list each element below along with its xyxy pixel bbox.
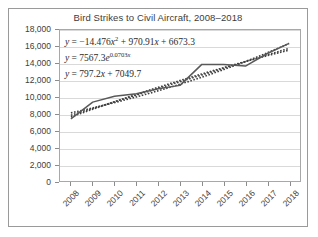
y-axis-tick-label: 16,000: [7, 41, 51, 51]
x-axis-tick-mark: [70, 182, 71, 186]
y-axis-tick-label: 18,000: [7, 24, 51, 34]
y-axis: 02,0004,0006,0008,00010,00012,00014,0001…: [9, 29, 59, 182]
y-axis-tick-label: 8,000: [7, 109, 51, 119]
y-axis-tick-label: 4,000: [7, 143, 51, 153]
y-axis-tick-label: 2,000: [7, 160, 51, 170]
equation-polynomial: y = −14.476x2 + 970.91x + 6673.3: [65, 34, 265, 50]
equation-exponential-coef: 0.0703: [110, 51, 128, 58]
chart-figure-frame: Bird Strikes to Civil Aircraft, 2008–201…: [8, 8, 308, 227]
trendline-equations: y = −14.476x2 + 970.91x + 6673.3 y = 756…: [65, 34, 265, 82]
x-axis: 2008200920102011201220132014201520162017…: [59, 182, 301, 228]
x-axis-tick-mark: [202, 182, 203, 186]
x-axis-tick-mark: [136, 182, 137, 186]
equation-exponential-exponent: 0.0703x: [110, 51, 131, 58]
equation-linear-tail: + 7049.7: [105, 69, 141, 79]
y-axis-tick-label: 12,000: [7, 75, 51, 85]
chart-title: Bird Strikes to Civil Aircraft, 2008–201…: [9, 12, 307, 23]
y-axis-tick-label: 6,000: [7, 126, 51, 136]
equation-linear-body: = 797.2: [69, 69, 100, 79]
x-axis-tick-mark: [92, 182, 93, 186]
x-axis-tick-mark: [180, 182, 181, 186]
y-axis-tick-label: 10,000: [7, 92, 51, 102]
equation-exponential-supvar: x: [128, 51, 131, 58]
x-axis-tick-mark: [158, 182, 159, 186]
equation-polynomial-body: = −14.476: [69, 37, 111, 47]
equation-exponential: y = 7567.3e0.0703x: [65, 50, 265, 66]
x-axis-tick-mark: [290, 182, 291, 186]
y-axis-tick-label: 0: [7, 177, 51, 187]
y-axis-tick-label: 14,000: [7, 58, 51, 68]
equation-polynomial-mid: + 970.91: [118, 37, 154, 47]
equation-linear: y = 797.2x + 7049.7: [65, 66, 265, 82]
equation-exponential-body: = 7567.3: [69, 53, 105, 63]
equation-polynomial-tail: + 6673.3: [159, 37, 195, 47]
x-axis-tick-mark: [246, 182, 247, 186]
x-axis-tick-mark: [114, 182, 115, 186]
x-axis-tick-mark: [268, 182, 269, 186]
x-axis-tick-mark: [224, 182, 225, 186]
